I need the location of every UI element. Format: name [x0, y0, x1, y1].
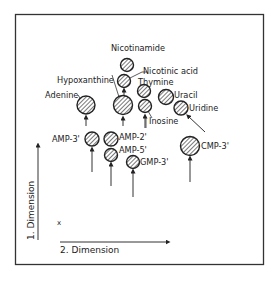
- label-nicotinamide: Nicotinamide: [111, 43, 165, 53]
- origin-marker: x: [57, 219, 61, 227]
- label-cmp-3: CMP-3': [201, 141, 229, 151]
- label-gmp-3: GMP-3': [140, 157, 169, 167]
- spot-labels: Nicotinamide Nicotinic acid Hypoxanthine…: [45, 43, 229, 167]
- spot-nicotinic-acid: [118, 75, 131, 88]
- label-nicotinic-acid: Nicotinic acid: [143, 66, 198, 76]
- y-axis-label: 1. Dimension: [26, 181, 36, 240]
- spot-inosine: [139, 100, 152, 113]
- spot-hypoxanthine: [114, 96, 133, 115]
- spot-uridine: [174, 101, 188, 115]
- label-inosine: Inosine: [149, 116, 178, 126]
- label-uridine: Uridine: [189, 103, 218, 113]
- axis-1-dimension: 1. Dimension: [26, 145, 38, 240]
- spot-amp-2: [104, 132, 118, 146]
- label-amp-5: AMP-5': [119, 145, 147, 155]
- spot-nicotinamide: [121, 59, 134, 72]
- spot-gmp-3: [127, 156, 140, 169]
- chromatogram-figure: 1. Dimension 2. Dimension x: [0, 0, 276, 281]
- spot-cmp-3: [181, 137, 200, 156]
- label-uracil: Uracil: [174, 90, 197, 100]
- label-thymine: Thymine: [137, 77, 174, 87]
- spot-amp-5: [105, 149, 118, 162]
- label-amp-2: AMP-2': [119, 132, 147, 142]
- label-amp-3: AMP-3': [52, 134, 80, 144]
- label-hypoxanthine: Hypoxanthine: [57, 75, 114, 85]
- spot-uracil: [159, 90, 174, 105]
- axis-2-dimension: 2. Dimension: [60, 242, 168, 255]
- spot-amp-3: [85, 132, 99, 146]
- x-axis-label: 2. Dimension: [60, 245, 119, 255]
- spot-adenine: [77, 96, 95, 114]
- label-adenine: Adenine: [45, 90, 78, 100]
